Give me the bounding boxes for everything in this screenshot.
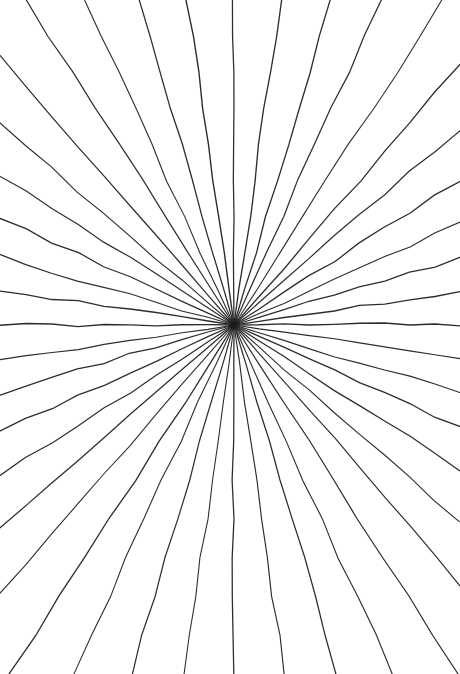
radiating-lines-figure: [0, 0, 460, 674]
convergence-point: [228, 317, 240, 329]
figure-canvas-container: Radiating line figure Hand-drawn radial …: [0, 0, 460, 674]
center-blot-halo: [228, 317, 240, 329]
